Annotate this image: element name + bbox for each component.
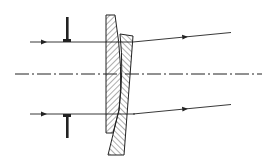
arrow-icon <box>41 40 47 45</box>
lower-stop <box>63 114 71 138</box>
lower-ray <box>30 105 231 117</box>
arrow-icon <box>182 35 188 40</box>
arrow-icon <box>182 107 188 112</box>
upper-stop <box>63 17 71 42</box>
optics-diagram <box>0 0 270 168</box>
arrow-icon <box>41 112 47 117</box>
